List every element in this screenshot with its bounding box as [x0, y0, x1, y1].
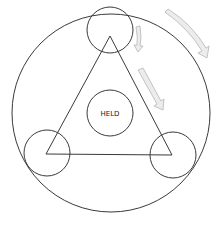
outer-clockwise-arrow-icon: [165, 9, 209, 58]
edge-arrow-icon: [138, 68, 164, 110]
held-label: HELD: [101, 110, 120, 118]
small-rotation-arrow-icon: [134, 26, 143, 52]
diagram-canvas: HELD: [0, 0, 221, 226]
held-node: HELD: [87, 90, 133, 136]
